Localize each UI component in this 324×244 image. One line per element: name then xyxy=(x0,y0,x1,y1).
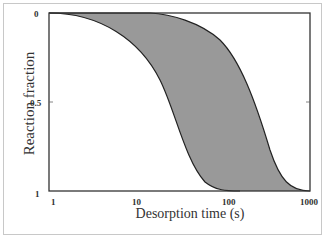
shaded-band xyxy=(49,13,310,191)
y-axis-label: Reaction fraction xyxy=(21,49,38,159)
y-tick-0: 0 xyxy=(34,9,39,19)
x-tick-1000: 1000 xyxy=(300,197,319,207)
x-tick-1: 1 xyxy=(51,197,56,207)
y-tick-1: 1 xyxy=(35,189,40,199)
x-axis-label: Desorption time (s) xyxy=(120,206,260,222)
